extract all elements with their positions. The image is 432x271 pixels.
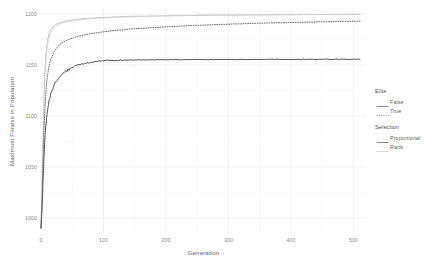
x-axis-tick-label: 500: [349, 237, 358, 243]
legend-item-label: Proportional: [390, 135, 420, 141]
legend-key-icon: [375, 133, 390, 142]
series-line: [41, 21, 360, 228]
legend-item-label: False: [390, 99, 404, 105]
legend-item-label: True: [390, 108, 401, 114]
x-axis-tick-label: 100: [99, 237, 108, 243]
x-axis-tick-label: 400: [287, 237, 296, 243]
chart-figure: Maximum Fitness in Population 1200115011…: [0, 0, 432, 271]
legend-item[interactable]: False: [375, 97, 432, 106]
y-axis-tick-label: 1150: [25, 62, 37, 68]
x-axis-tick-labels: 0100200300400500: [41, 237, 366, 247]
legend-title: Selection: [375, 124, 432, 130]
legend-title: Elite: [375, 88, 432, 94]
legend-item[interactable]: Rank: [375, 142, 432, 151]
y-axis-tick-label: 1200: [25, 11, 37, 17]
data-series-layer: [41, 9, 366, 233]
x-axis-tick-label: 0: [40, 237, 43, 243]
series-line: [41, 59, 360, 228]
legend-key-icon: [375, 142, 390, 151]
y-axis-tick-label: 1000: [25, 215, 37, 221]
legend-key-icon: [375, 106, 390, 115]
plot-area: [41, 9, 366, 233]
y-axis-tick-label: 1100: [25, 113, 37, 119]
series-line: [41, 14, 360, 228]
legend-item[interactable]: Proportional: [375, 133, 432, 142]
x-axis-tick-label: 300: [224, 237, 233, 243]
x-axis-title: Generation: [41, 249, 366, 256]
series-line: [41, 14, 360, 228]
legend-item-label: Rank: [390, 144, 403, 150]
legend-item[interactable]: True: [375, 106, 432, 115]
y-axis-tick-labels: 12001150110010501000: [0, 9, 37, 233]
legend-block-selection: SelectionProportionalRank: [375, 124, 432, 151]
y-axis-tick-label: 1050: [25, 164, 37, 170]
legend-block-elite: EliteFalseTrue: [375, 88, 432, 115]
legend-key-icon: [375, 97, 390, 106]
legend-container: EliteFalseTrueSelectionProportionalRank: [375, 88, 432, 160]
x-axis-tick-label: 200: [162, 237, 171, 243]
